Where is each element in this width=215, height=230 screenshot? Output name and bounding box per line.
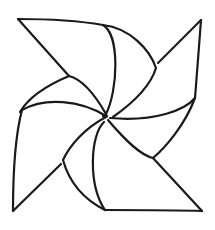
pinwheel-drawing — [0, 0, 215, 230]
hub — [102, 114, 108, 118]
vane-bottom-right — [93, 98, 202, 211]
vane-top-right — [103, 20, 201, 119]
vane-top-left — [18, 19, 115, 114]
